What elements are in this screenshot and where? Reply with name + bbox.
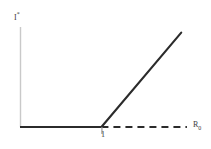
x-tick-label-1: 1 xyxy=(101,131,105,139)
endemic-branch-line xyxy=(101,33,181,127)
bifurcation-figure: I* R0 1 xyxy=(0,0,211,149)
x-axis-label-subscript: 0 xyxy=(198,125,201,131)
y-axis-label-superscript: * xyxy=(17,11,20,17)
y-axis-label: I* xyxy=(14,14,20,22)
plot-canvas xyxy=(0,0,211,149)
x-axis-label: R0 xyxy=(193,121,201,129)
